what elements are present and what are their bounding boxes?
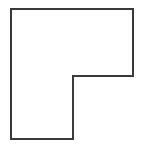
l-shape-diagram	[0, 0, 143, 147]
figure-canvas	[0, 0, 143, 147]
